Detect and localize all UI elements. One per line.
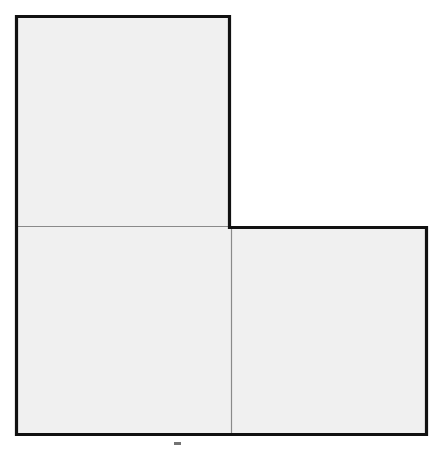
figure-caption xyxy=(0,438,438,450)
outer-boundary-path xyxy=(17,17,427,435)
figure-canvas xyxy=(0,0,438,450)
l-tromino-outline xyxy=(0,0,438,450)
